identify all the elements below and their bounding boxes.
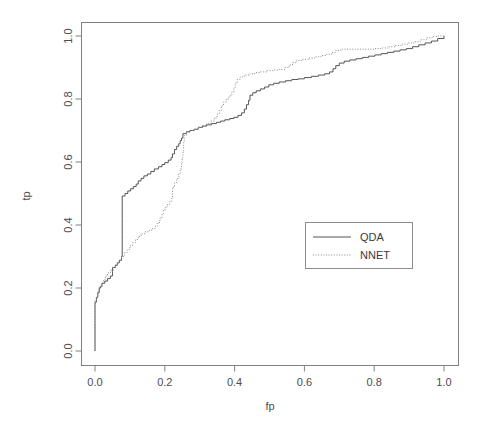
y-tick-label: 0.6 (62, 154, 74, 169)
roc-chart: 0.00.20.40.60.81.0 0.00.20.40.60.81.0 fp… (0, 0, 482, 433)
x-tick-label: 0.8 (367, 376, 382, 388)
y-tick-label: 0.2 (62, 280, 74, 295)
legend-box (306, 223, 413, 269)
x-axis-title: fp (265, 400, 274, 412)
x-tick-label: 1.0 (436, 376, 451, 388)
x-tick-label: 0.6 (297, 376, 312, 388)
roc-plot-container: 0.00.20.40.60.81.0 0.00.20.40.60.81.0 fp… (0, 0, 482, 433)
y-tick-label: 1.0 (62, 28, 74, 43)
x-tick-label: 0.4 (227, 376, 242, 388)
legend: QDA NNET (306, 223, 413, 269)
y-tick-label: 0.4 (62, 217, 74, 232)
x-tick-label: 0.0 (87, 376, 102, 388)
legend-label-qda: QDA (360, 231, 385, 243)
y-tick-label: 0.0 (62, 343, 74, 358)
y-axis-title: tp (20, 191, 32, 200)
legend-label-nnet: NNET (360, 249, 390, 261)
y-tick-label: 0.8 (62, 91, 74, 106)
x-tick-label: 0.2 (157, 376, 172, 388)
chart-background (0, 0, 482, 433)
